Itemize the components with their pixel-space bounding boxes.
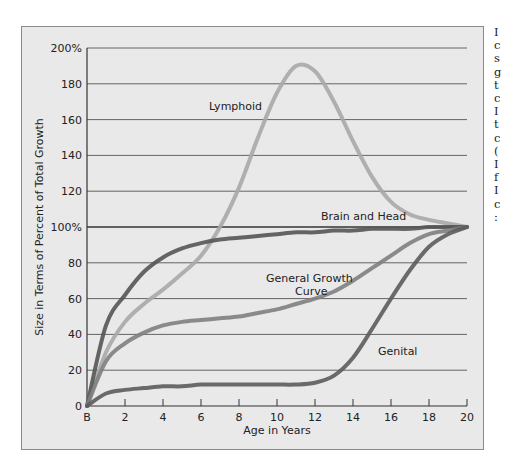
y-axis-label: Size in Terms of Percent of Total Growth — [33, 118, 46, 336]
genital-line — [87, 227, 467, 406]
general-growth-label-2: Curve — [295, 285, 328, 298]
y-tick-label: 20 — [68, 364, 82, 377]
x-tick-label: 10 — [270, 411, 284, 424]
x-axis-label: Age in Years — [243, 424, 311, 437]
y-tick-label: 140 — [61, 149, 82, 162]
y-tick-label: 100% — [51, 221, 82, 234]
x-tick-label: 8 — [236, 411, 243, 424]
y-tick-label: 200% — [51, 42, 82, 55]
y-tick-label: 120 — [61, 185, 82, 198]
y-tick-label: 80 — [68, 257, 82, 270]
tick-labels: 020406080100%120140160180200%B2468101214… — [51, 42, 474, 424]
y-tick-label: 180 — [61, 78, 82, 91]
x-tick-label: 6 — [198, 411, 205, 424]
y-tick-label: 60 — [68, 293, 82, 306]
x-tick-label: 4 — [160, 411, 167, 424]
brain-head-label: Brain and Head — [321, 210, 406, 223]
lymphoid-label: Lymphoid — [209, 100, 262, 113]
genital-label: Genital — [378, 345, 417, 358]
brain-and-head-line — [87, 227, 467, 406]
general-growth-label: General Growth — [266, 272, 353, 285]
x-tick-label: 18 — [422, 411, 436, 424]
x-tick-label: 12 — [308, 411, 322, 424]
y-tick-label: 40 — [68, 328, 82, 341]
general-growth-curve-line — [87, 227, 467, 406]
x-tick-label: B — [83, 411, 91, 424]
x-tick-label: 14 — [346, 411, 360, 424]
y-tick-label: 160 — [61, 114, 82, 127]
x-tick-label: 16 — [384, 411, 398, 424]
x-tick-label: 20 — [460, 411, 474, 424]
growth-chart: 020406080100%120140160180200%B2468101214… — [0, 0, 506, 472]
y-tick-label: 0 — [75, 400, 82, 413]
cropped-caption-text: I c s g t c I t c ( I f I c : — [494, 26, 506, 224]
x-tick-label: 2 — [122, 411, 129, 424]
